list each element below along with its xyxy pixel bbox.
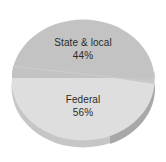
pie-label-federal-value: 56% (0, 106, 166, 119)
pie-label-federal-name: Federal (0, 93, 166, 106)
pie-label-state-local-value: 44% (0, 49, 166, 62)
pie-label-state-local: State & local 44% (0, 36, 166, 62)
pie-label-state-local-name: State & local (0, 36, 166, 49)
pie-label-federal: Federal 56% (0, 93, 166, 119)
pie-chart: State & local 44% Federal 56% (0, 0, 166, 162)
pie-chart-graphic (0, 0, 166, 162)
